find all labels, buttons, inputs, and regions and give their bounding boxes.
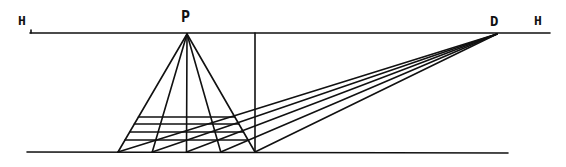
diagonal-line — [118, 34, 497, 152]
orthogonal-line — [187, 34, 255, 152]
orthogonal-line — [187, 34, 188, 152]
diagonal-line — [255, 34, 497, 152]
label-horizon-left: H — [18, 13, 26, 28]
diagonal-line — [187, 34, 498, 152]
label-distance-point: D — [490, 13, 498, 29]
diagonal-line — [221, 34, 497, 152]
orthogonal-line — [152, 34, 187, 152]
label-vanishing-point: P — [181, 8, 190, 26]
perspective-diagram: H P D H — [0, 0, 566, 167]
ground-line — [27, 152, 508, 153]
label-horizon-right: H — [534, 13, 542, 28]
